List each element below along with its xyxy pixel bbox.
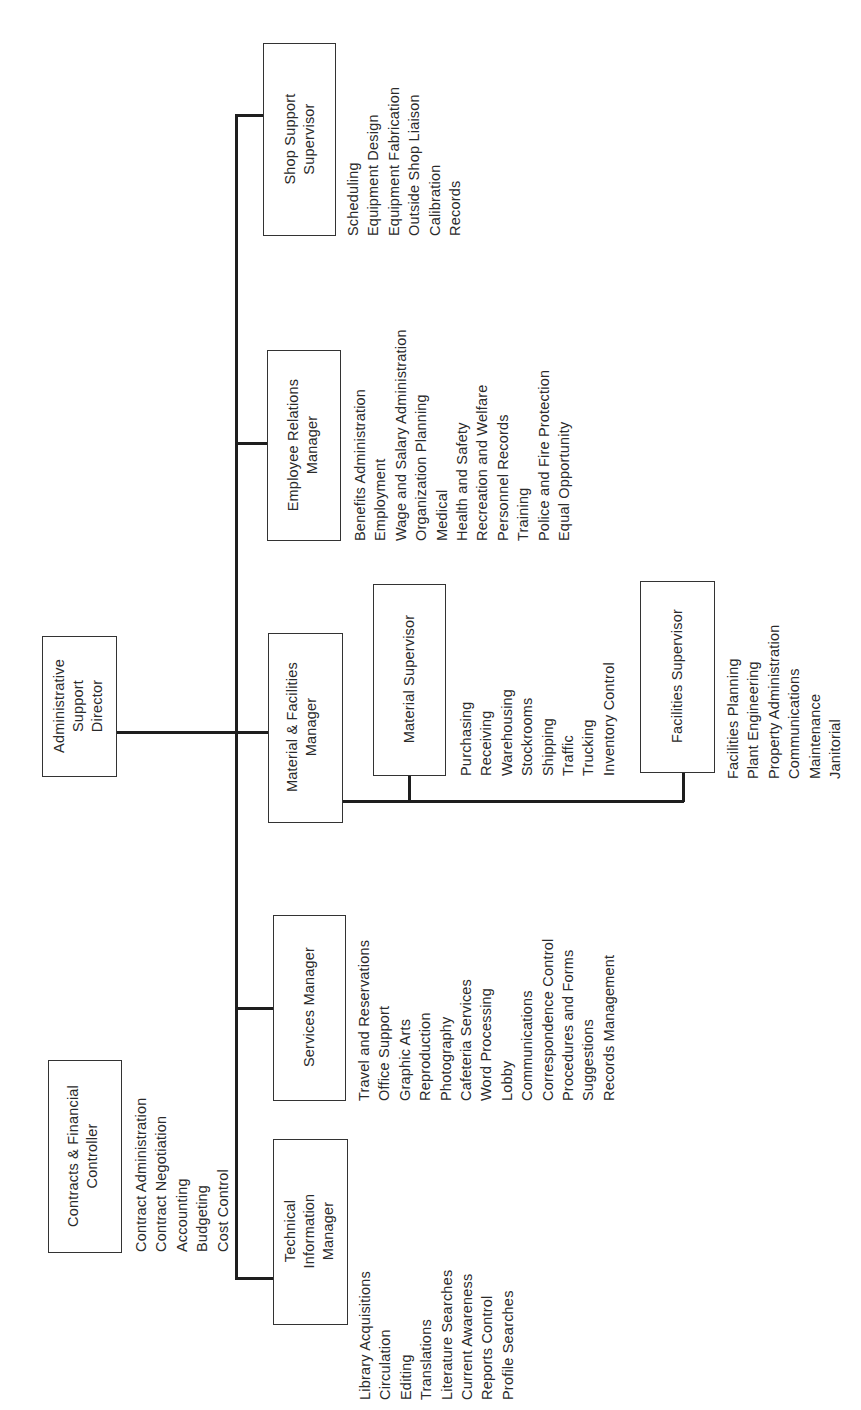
spine-line bbox=[235, 114, 238, 1280]
shop-support-connector bbox=[236, 114, 264, 117]
shop-support-title: Shop Support Supervisor bbox=[281, 49, 319, 229]
material-facilities-title: Material & Facilities Manager bbox=[283, 638, 321, 816]
material-supervisor-title: Material Supervisor bbox=[400, 589, 419, 769]
services-functions: Travel and Reservations Office Support G… bbox=[354, 939, 619, 1101]
employee-relations-connector bbox=[236, 442, 268, 445]
services-title: Services Manager bbox=[300, 920, 319, 1094]
material-facilities-branch bbox=[341, 800, 684, 803]
shop-support-functions: Scheduling Equipment Design Equipment Fa… bbox=[343, 87, 465, 236]
material-facilities-connector bbox=[236, 731, 269, 734]
technical-information-connector bbox=[236, 1277, 274, 1280]
facilities-supervisor-title: Facilities Supervisor bbox=[668, 586, 687, 766]
technical-information-title: Technical Information Manager bbox=[281, 1144, 338, 1318]
director-title: Administrative Support Director bbox=[50, 642, 107, 770]
employee-relations-functions: Benefits Administration Employment Wage … bbox=[350, 329, 574, 541]
employee-relations-title: Employee Relations Manager bbox=[284, 356, 322, 534]
material-supervisor-drop bbox=[408, 774, 411, 802]
contracts-functions: Contract Administration Contract Negotia… bbox=[131, 1098, 233, 1253]
contracts-title: Contracts & Financial Controller bbox=[64, 1066, 102, 1246]
facilities-supervisor-drop bbox=[682, 771, 685, 802]
technical-information-functions: Library Acquisitions Circulation Editing… bbox=[355, 1270, 518, 1400]
facilities-supervisor-functions: Facilities Planning Plant Engineering Pr… bbox=[723, 625, 845, 780]
material-supervisor-functions: Purchasing Receiving Warehousing Stockro… bbox=[456, 662, 619, 776]
services-connector bbox=[236, 1007, 274, 1010]
director-connector bbox=[116, 731, 237, 734]
